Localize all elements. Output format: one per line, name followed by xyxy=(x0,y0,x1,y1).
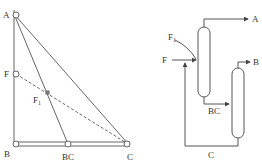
ternary-triangle xyxy=(13,10,130,147)
column-2 xyxy=(232,68,244,138)
stream-a xyxy=(204,19,248,27)
label-c: C xyxy=(127,152,133,162)
stream-b xyxy=(238,62,250,68)
label-stream-f1: F1 xyxy=(168,32,176,43)
diagram-canvas: A F F1 B BC C A F1 F B BC C xyxy=(0,0,262,165)
point-c xyxy=(124,141,130,147)
label-b: B xyxy=(4,149,10,159)
label-f: F xyxy=(4,69,9,79)
label-bc: BC xyxy=(62,152,74,162)
point-a xyxy=(13,12,19,18)
stream-bc xyxy=(204,97,229,104)
label-stream-a: A xyxy=(252,14,259,24)
label-a: A xyxy=(3,10,10,20)
point-b xyxy=(13,141,19,147)
label-stream-f: F xyxy=(162,55,167,65)
edge-ac xyxy=(14,14,130,146)
column-1 xyxy=(198,27,210,97)
point-f1 xyxy=(46,91,49,94)
line-a-bc xyxy=(14,14,68,144)
label-stream-bc: BC xyxy=(208,106,220,116)
label-f1: F1 xyxy=(33,95,41,106)
line-f-c-dashed xyxy=(16,74,128,144)
label-stream-b: B xyxy=(253,57,259,67)
label-stream-c: C xyxy=(208,150,214,160)
stream-f1 xyxy=(175,40,196,59)
point-f xyxy=(13,71,19,77)
flowsheet xyxy=(172,19,250,146)
point-bc xyxy=(65,141,71,147)
